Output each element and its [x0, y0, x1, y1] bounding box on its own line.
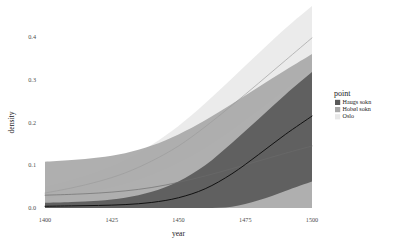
y-tick-label: 0.3 — [28, 76, 36, 83]
x-axis-title: year — [172, 229, 186, 238]
x-tick-label: 1500 — [306, 216, 318, 223]
density-year-chart: 14001425145014751500 0.00.10.20.30.4 yea… — [0, 0, 394, 251]
y-tick-label: 0.2 — [28, 119, 36, 126]
legend-label-hob-l-sokn[interactable]: Hobøl sokn — [343, 106, 371, 112]
legend-label-oslo[interactable]: Oslo — [343, 113, 355, 119]
legend-title: point — [334, 89, 351, 98]
y-tick-label: 0.0 — [28, 204, 36, 211]
legend-swatch-hob-l-sokn[interactable] — [335, 107, 340, 112]
legend-label-haugs-sokn[interactable]: Haugs sokn — [343, 99, 372, 105]
x-tick-label: 1425 — [106, 216, 118, 223]
y-tick-label: 0.1 — [28, 161, 36, 168]
legend-swatch-haugs-sokn[interactable] — [335, 100, 340, 105]
y-tick-label: 0.4 — [28, 33, 36, 40]
x-tick-label: 1475 — [239, 216, 251, 223]
chart-canvas: 14001425145014751500 0.00.10.20.30.4 yea… — [0, 0, 394, 251]
x-tick-label: 1400 — [39, 216, 51, 223]
y-axis-title: density — [7, 111, 16, 133]
x-tick-label: 1450 — [172, 216, 184, 223]
legend-swatch-oslo[interactable] — [335, 114, 340, 119]
